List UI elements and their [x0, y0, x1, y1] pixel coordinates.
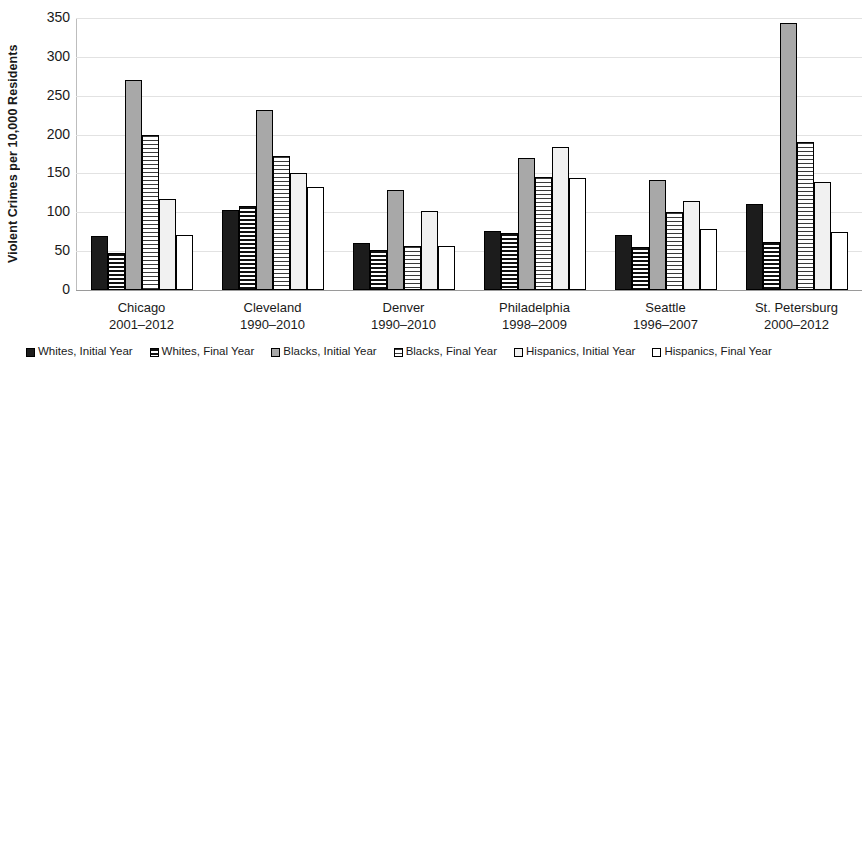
y-axis-title-top: Violent Crimes per 10,000 Residents — [6, 18, 20, 290]
x-tick-label-line: 1990–2010 — [338, 317, 469, 334]
bar — [421, 211, 438, 290]
x-tick-label: Philadelphia1998–2009 — [469, 300, 600, 333]
bar — [239, 206, 256, 290]
bar — [501, 233, 518, 291]
x-tick-label: Chicago2001–2012 — [76, 300, 207, 333]
bar — [290, 173, 307, 290]
bar — [746, 204, 763, 290]
solid-black-swatch — [26, 348, 35, 357]
bar — [484, 231, 501, 290]
x-tick-label-line: Chicago — [76, 300, 207, 317]
bar — [307, 187, 324, 290]
y-axis-ticks-top: 050100150200250300350 — [22, 0, 70, 300]
dense-stripe-swatch — [150, 348, 159, 357]
plot-area-top — [76, 18, 862, 290]
bar — [700, 229, 717, 290]
bar — [91, 236, 108, 290]
legend-item[interactable]: Blacks, Initial Year — [271, 346, 376, 358]
legend-label: Hispanics, Initial Year — [526, 346, 635, 358]
bar-group — [76, 18, 207, 290]
x-tick-label-line: 2000–2012 — [731, 317, 862, 334]
x-tick-label: Cleveland1990–2010 — [207, 300, 338, 333]
bar — [518, 158, 535, 290]
x-tick-label-line: 1990–2010 — [207, 317, 338, 334]
y-tick-label: 300 — [22, 49, 70, 63]
y-tick-label: 100 — [22, 204, 70, 218]
bar — [176, 235, 193, 290]
y-tick-label: 350 — [22, 10, 70, 24]
bar-group — [338, 18, 469, 290]
y-tick-label: 0 — [22, 282, 70, 296]
x-tick-label-line: Philadelphia — [469, 300, 600, 317]
x-tick-label: Denver1990–2010 — [338, 300, 469, 333]
solid-gray-swatch — [271, 348, 280, 357]
x-tick-label-line: Seattle — [600, 300, 731, 317]
bar-groups-top — [76, 18, 862, 290]
bar-group — [207, 18, 338, 290]
bar — [615, 235, 632, 290]
bar — [222, 210, 239, 290]
x-tick-label-line: St. Petersburg — [731, 300, 862, 317]
legend-item[interactable]: Hispanics, Initial Year — [514, 346, 635, 358]
x-axis-labels-top: Chicago2001–2012Cleveland1990–2010Denver… — [76, 300, 862, 333]
y-tick-label: 50 — [22, 243, 70, 257]
bar — [552, 147, 569, 290]
y-tick-label: 250 — [22, 88, 70, 102]
light-stripe-swatch — [394, 348, 403, 357]
bar-group — [731, 18, 862, 290]
bar-group — [469, 18, 600, 290]
bar — [797, 142, 814, 290]
legend-item[interactable]: Whites, Final Year — [150, 346, 255, 358]
bar — [535, 177, 552, 290]
bar — [438, 246, 455, 290]
legend-label: Whites, Initial Year — [38, 346, 133, 358]
y-tick-label: 200 — [22, 127, 70, 141]
bar — [142, 135, 159, 290]
violent-crime-chart-bottom: Violent Crimes per 10,000 Residents 0501… — [0, 420, 868, 843]
legend-item[interactable]: Whites, Initial Year — [26, 346, 133, 358]
bar — [831, 232, 848, 290]
x-tick-label: St. Petersburg2000–2012 — [731, 300, 862, 333]
bar — [370, 250, 387, 290]
white-swatch — [652, 348, 661, 357]
x-tick-label-line: 1996–2007 — [600, 317, 731, 334]
legend-item[interactable]: Hispanics, Final Year — [652, 346, 771, 358]
bar — [353, 243, 370, 290]
bar — [159, 199, 176, 290]
legend-item[interactable]: Blacks, Final Year — [394, 346, 497, 358]
y-tick-label: 150 — [22, 165, 70, 179]
x-tick-label: Seattle1996–2007 — [600, 300, 731, 333]
bar — [569, 178, 586, 290]
bar — [632, 247, 649, 290]
x-tick-label-line: 2001–2012 — [76, 317, 207, 334]
bar — [387, 190, 404, 290]
bar — [108, 253, 125, 290]
bar-group — [600, 18, 731, 290]
x-axis-line-top — [76, 290, 862, 291]
legend-label: Hispanics, Final Year — [664, 346, 771, 358]
bar — [666, 212, 683, 290]
bar — [814, 182, 831, 290]
x-tick-label-line: 1998–2009 — [469, 317, 600, 334]
bar — [404, 246, 421, 290]
very-light-gray-swatch — [514, 348, 523, 357]
bar — [273, 156, 290, 290]
bar — [683, 201, 700, 290]
bar — [125, 80, 142, 290]
bar — [780, 23, 797, 290]
x-tick-label-line: Denver — [338, 300, 469, 317]
bar — [763, 242, 780, 290]
violent-crime-chart-top: Violent Crimes per 10,000 Residents 0501… — [0, 0, 868, 372]
bar — [649, 180, 666, 290]
legend-label: Blacks, Final Year — [406, 346, 497, 358]
legend-label: Whites, Final Year — [162, 346, 255, 358]
legend-top: Whites, Initial YearWhites, Final YearBl… — [26, 344, 856, 360]
bar — [256, 110, 273, 290]
x-tick-label-line: Cleveland — [207, 300, 338, 317]
legend-label: Blacks, Initial Year — [283, 346, 376, 358]
